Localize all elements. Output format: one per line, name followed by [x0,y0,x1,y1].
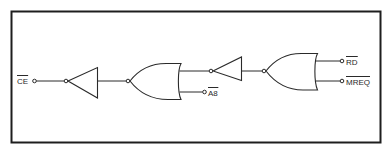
a8-label: A8 [208,89,218,98]
rd-terminal [340,59,344,63]
mreq-label: MREQ [346,78,370,87]
a8-terminal [203,90,207,94]
mreq-terminal [340,79,344,83]
logic-diagram: CE A8 RD MREQ [0,0,389,153]
or-gate-1-bubble [126,79,130,83]
ce-terminal [33,79,37,83]
ce-label: CE [17,77,28,86]
diagram-frame [12,12,381,143]
or-gate-2-bubble [262,69,266,73]
rd-label: RD [346,58,358,67]
